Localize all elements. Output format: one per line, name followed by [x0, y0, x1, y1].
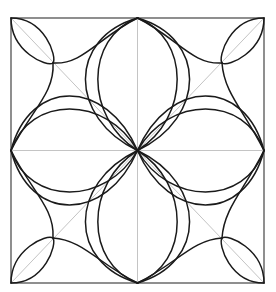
petal-curve-right [138, 151, 265, 193]
petal-curve-right [138, 109, 265, 151]
petal-curve-up [138, 18, 178, 151]
petal-curve-left [11, 151, 138, 193]
rosette-diagram [0, 0, 276, 292]
petal-curve-left [11, 109, 138, 151]
petal-curve-up [98, 18, 138, 151]
